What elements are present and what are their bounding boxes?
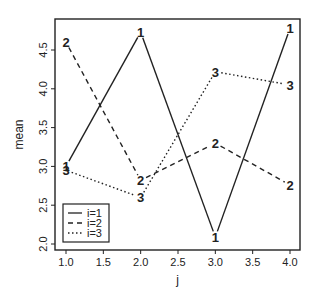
series-line-2: [69, 48, 138, 176]
x-tick-label: 1.5: [96, 256, 111, 268]
x-tick-label: 2.0: [133, 256, 148, 268]
y-tick-label: 2.0: [37, 236, 49, 251]
series-line-1: [217, 34, 288, 231]
x-tick-label: 2.5: [170, 256, 185, 268]
point-label-3: 3: [212, 65, 219, 80]
series-line-2: [146, 146, 210, 178]
y-tick-label: 3.5: [37, 120, 49, 135]
y-tick-label: 2.5: [37, 198, 49, 213]
interaction-plot: 1.01.52.02.53.03.54.02.02.53.03.54.04.5j…: [0, 0, 323, 293]
point-label-1: 1: [137, 25, 144, 40]
y-tick-label: 4.5: [37, 42, 49, 57]
x-tick-label: 3.5: [245, 256, 260, 268]
point-label-2: 2: [212, 136, 219, 151]
y-tick-label: 3.0: [37, 159, 49, 174]
point-label-3: 3: [286, 78, 293, 93]
x-axis-title: j: [175, 273, 179, 287]
point-label-3: 3: [62, 163, 69, 178]
series-line-2: [221, 146, 285, 182]
legend-label-3: i=3: [87, 227, 102, 239]
series-line-1: [143, 38, 214, 232]
y-axis-title: mean: [12, 119, 26, 149]
series-line-1: [69, 37, 138, 161]
x-tick-label: 3.0: [208, 256, 223, 268]
legend: i=1i=2i=3: [63, 204, 109, 242]
y-tick-label: 4.0: [37, 81, 49, 96]
series-line-3: [221, 73, 284, 84]
axes: 1.01.52.02.53.03.54.02.02.53.03.54.04.5j…: [12, 19, 300, 287]
point-label-3: 3: [137, 190, 144, 205]
x-tick-label: 1.0: [58, 256, 73, 268]
point-label-2: 2: [137, 173, 144, 188]
point-label-2: 2: [62, 35, 69, 50]
point-label-1: 1: [286, 21, 293, 36]
point-label-1: 1: [212, 230, 219, 245]
series-line-3: [72, 172, 135, 195]
point-label-2: 2: [286, 178, 293, 193]
x-tick-label: 4.0: [282, 256, 297, 268]
